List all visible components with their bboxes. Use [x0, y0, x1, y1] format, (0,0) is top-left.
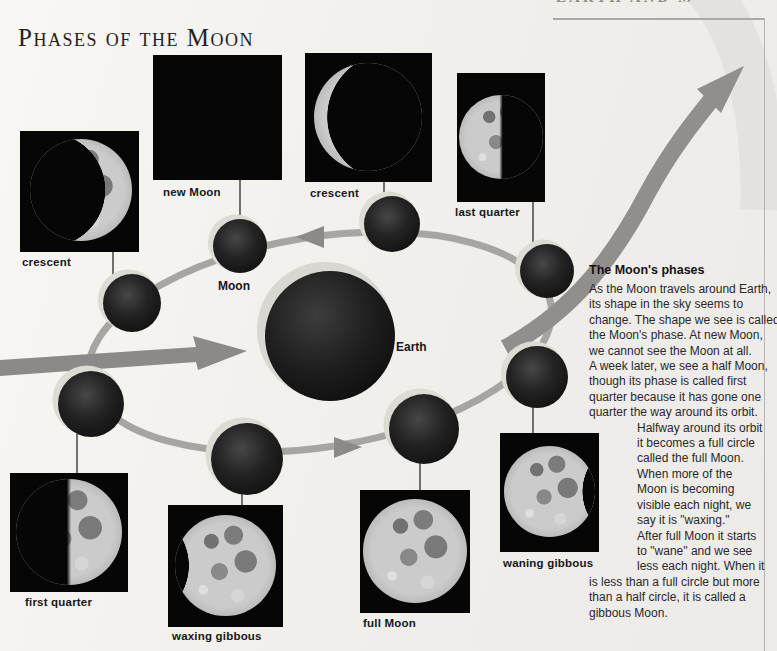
- caption-first-quarter: first quarter: [25, 596, 92, 608]
- top-rule: [553, 18, 765, 20]
- page-title: Phases of the Moon: [18, 24, 254, 52]
- paragraph-line: is less than a full circle but more: [589, 575, 771, 590]
- half-moon-image: [16, 479, 122, 585]
- paragraph-line: A week later, we see a half Moon,: [589, 359, 771, 374]
- photo-full-moon: [360, 490, 470, 613]
- paragraph-line: its shape in the sky seems to: [589, 297, 771, 312]
- photo-last-quarter: [457, 73, 545, 202]
- photo-waxing-gibbous: [168, 505, 283, 627]
- moon-label: Moon: [218, 279, 250, 293]
- paragraph-line: Moon is becoming: [589, 482, 771, 497]
- paragraph-line: less each night. When it: [589, 559, 771, 574]
- paragraph-line: quarter because it has gone one: [589, 390, 771, 405]
- earth-sphere: [257, 262, 395, 401]
- paragraph-line: change. The shape we see is called: [589, 313, 771, 328]
- sidebar-heading: The Moon's phases: [589, 263, 705, 277]
- paragraph-line: called the full Moon.: [589, 451, 771, 466]
- paragraph-line: say it is "waxing.": [589, 513, 771, 528]
- paragraph-line: When more of the: [589, 467, 771, 482]
- paragraph-line: quarter the way around its orbit.: [589, 405, 771, 420]
- paragraph-line: visible each night, we: [589, 498, 771, 513]
- caption-full-moon: full Moon: [363, 617, 416, 629]
- paragraph-line: though its phase is called first: [589, 374, 771, 389]
- crescent-moon-image: [30, 139, 132, 241]
- half-moon-image: [459, 95, 543, 179]
- crescent-moon-image: [314, 63, 422, 171]
- caption-waxing-gibbous: waxing gibbous: [172, 630, 262, 642]
- paragraph-line: we cannot see the Moon at all.: [589, 344, 771, 359]
- caption-waning-gibbous: waning gibbous: [503, 557, 593, 569]
- paragraph-line: it becomes a full circle: [589, 436, 771, 451]
- paragraph-line: than a half circle, it is called a: [589, 590, 771, 605]
- photo-crescent-waxing: [305, 53, 432, 182]
- paragraph-line: the Moon's phase. At new Moon,: [589, 328, 771, 343]
- paragraph-line: Halfway around its orbit: [589, 421, 771, 436]
- paragraph-line: gibbous Moon.: [589, 606, 771, 621]
- earth-label: Earth: [396, 340, 427, 354]
- paragraph-line: As the Moon travels around Earth,: [589, 282, 771, 297]
- caption-crescent-2: crescent: [310, 187, 359, 199]
- photo-waning-gibbous: [500, 433, 599, 552]
- full-moon-image: [363, 499, 467, 603]
- caption-last-quarter: last quarter: [455, 206, 520, 218]
- gibbous-moon-image: [175, 515, 276, 616]
- moon-phases-paragraph: As the Moon travels around Earth,its sha…: [589, 282, 771, 621]
- caption-new-moon: new Moon: [163, 186, 221, 198]
- book-page: EARTH AND MOON: [0, 0, 777, 651]
- caption-crescent: crescent: [22, 256, 71, 268]
- photo-crescent-waning: [20, 131, 139, 252]
- photo-new-moon: [153, 55, 282, 180]
- paragraph-line: After full Moon it starts: [589, 529, 771, 544]
- paragraph-line: to "wane" and we see: [589, 544, 771, 559]
- photo-first-quarter: [10, 473, 128, 592]
- gibbous-moon-image: [504, 446, 595, 537]
- orbit-arrowhead-top-left-icon: [296, 226, 324, 248]
- sunlight-arrow-icon: [0, 336, 247, 376]
